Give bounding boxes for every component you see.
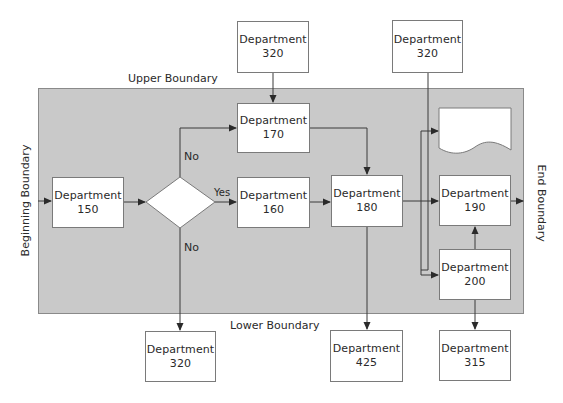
node-number: 320 [262, 47, 283, 61]
node-department-190[interactable]: Department 190 [439, 175, 511, 226]
edge-label-yes: Yes [214, 187, 230, 198]
node-department-320-top-left[interactable]: Department 320 [237, 21, 309, 73]
node-department-160[interactable]: Department 160 [237, 177, 310, 228]
node-department-320-top-right[interactable]: Department 320 [392, 20, 463, 73]
node-number: 160 [263, 203, 284, 217]
node-number: 320 [417, 47, 438, 61]
node-department-170[interactable]: Department 170 [237, 103, 310, 153]
node-department-180[interactable]: Department 180 [331, 175, 403, 227]
node-title: Department [441, 261, 509, 275]
node-title: Department [239, 33, 307, 47]
node-department-150[interactable]: Department 150 [52, 177, 124, 228]
node-number: 150 [77, 203, 98, 217]
node-title: Department [394, 33, 462, 47]
node-title: Department [441, 187, 509, 201]
end-boundary-label: End Boundary [535, 165, 548, 237]
node-number: 320 [170, 357, 191, 371]
node-number: 170 [263, 128, 284, 142]
node-title: Department [147, 343, 215, 357]
node-title: Department [441, 342, 509, 356]
node-title: Department [240, 189, 308, 203]
node-department-315[interactable]: Department 315 [439, 330, 511, 381]
node-title: Department [240, 114, 308, 128]
upper-boundary-label: Upper Boundary [128, 72, 218, 85]
node-department-320-bottom[interactable]: Department 320 [145, 331, 216, 382]
lower-boundary-label: Lower Boundary [230, 319, 319, 332]
node-number: 180 [356, 201, 377, 215]
node-title: Department [333, 187, 401, 201]
node-number: 190 [464, 201, 485, 215]
node-title: Department [333, 342, 401, 356]
edge-label-no-down: No [184, 241, 199, 254]
node-number: 315 [464, 356, 485, 370]
process-flow-diagram: Upper Boundary Lower Boundary Beginning … [0, 0, 563, 403]
edge-label-no-up: No [184, 150, 199, 163]
node-department-200[interactable]: Department 200 [439, 249, 511, 300]
node-number: 425 [356, 356, 377, 370]
beginning-boundary-label: Beginning Boundary [19, 145, 32, 257]
node-number: 200 [464, 275, 485, 289]
node-department-425[interactable]: Department 425 [330, 330, 403, 382]
node-title: Department [54, 189, 122, 203]
